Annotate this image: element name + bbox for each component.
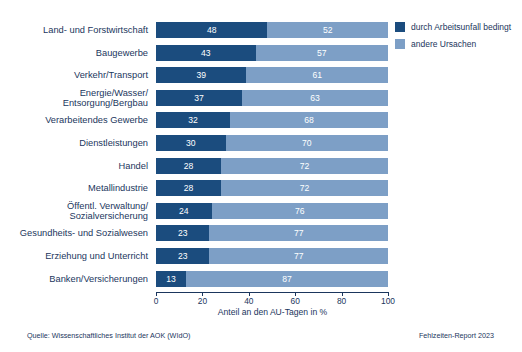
x-axis-tick-label: 60 [291,296,300,306]
bar-value-label: 77 [209,228,388,238]
bar-value-label: 52 [267,25,388,35]
bar-value-label: 39 [156,70,246,80]
bar-value-label: 28 [156,161,221,171]
bar-value-label: 13 [156,274,186,284]
legend-label-0: durch Arbeitsunfall bedingt [411,22,511,32]
bar-segment-andere: 70 [226,135,388,151]
bar-segment-arbeitsunfall: 32 [156,112,230,128]
bar-value-label: 32 [156,115,230,125]
bar-segment-andere: 77 [209,225,388,241]
bar-segment-andere: 72 [221,180,388,196]
bar-row: 2476 [156,203,388,219]
category-label: Metallindustrie [88,183,148,194]
bar-value-label: 24 [156,206,212,216]
category-label: Verkehr/Transport [74,70,148,81]
bar-segment-andere: 87 [186,271,388,287]
bar-segment-arbeitsunfall: 23 [156,248,209,264]
bar-row: 1387 [156,271,388,287]
legend-swatch-1 [395,39,405,49]
x-axis-line [156,292,389,293]
bar-value-label: 72 [221,183,388,193]
bar-value-label: 70 [226,138,388,148]
bar-segment-arbeitsunfall: 39 [156,67,246,83]
category-label: Banken/Versicherungen [49,274,148,285]
bar-value-label: 68 [230,115,388,125]
bar-row: 3961 [156,67,388,83]
x-axis-tick-label: 40 [244,296,253,306]
bar-segment-arbeitsunfall: 43 [156,45,256,61]
bar-value-label: 37 [156,93,242,103]
x-axis-tick-label: 80 [337,296,346,306]
bar-value-label: 77 [209,251,388,261]
category-label: Öffentl. Verwaltung/ Sozialversicherung [67,201,148,222]
bar-value-label: 30 [156,138,226,148]
bar-row: 2377 [156,225,388,241]
category-label: Gesundheits- und Sozialwesen [20,228,148,239]
bar-segment-andere: 76 [212,203,388,219]
legend-item-1: andere Ursachen [395,39,511,49]
bar-segment-andere: 72 [221,158,388,174]
bar-value-label: 43 [156,48,256,58]
bar-row: 2377 [156,248,388,264]
footer: Quelle: Wissenschaftliches Institut der … [0,331,522,343]
bar-segment-arbeitsunfall: 28 [156,180,221,196]
bar-row: 2872 [156,158,388,174]
bar-value-label: 61 [246,70,388,80]
x-axis-tick-label: 0 [154,296,159,306]
bar-row: 3268 [156,112,388,128]
legend-swatch-0 [395,22,405,32]
category-label: Energie/Wasser/ Entsorgung/Bergbau [63,88,148,109]
source-note: Quelle: Wissenschaftliches Institut der … [27,331,190,340]
plot-area: 4852435739613763326830702872287224762377… [156,20,388,292]
x-axis-title: Anteil an den AU-Tagen in % [156,307,389,317]
category-label: Erziehung und Unterricht [45,251,148,262]
legend: durch Arbeitsunfall bedingt andere Ursac… [395,22,511,56]
bar-segment-arbeitsunfall: 13 [156,271,186,287]
category-label: Handel [119,161,148,172]
bar-row: 3763 [156,90,388,106]
bar-row: 2872 [156,180,388,196]
bar-value-label: 48 [156,25,267,35]
legend-label-1: andere Ursachen [411,39,476,49]
chart-container: Land- und ForstwirtschaftBaugewerbeVerke… [0,0,522,352]
bar-segment-arbeitsunfall: 48 [156,22,267,38]
bar-value-label: 76 [212,206,388,216]
x-axis-tick-label: 20 [198,296,207,306]
bar-value-label: 72 [221,161,388,171]
bar-row: 4357 [156,45,388,61]
report-note: Fehlzeiten-Report 2023 [419,331,494,340]
bar-row: 4852 [156,22,388,38]
bar-value-label: 23 [156,251,209,261]
bar-segment-arbeitsunfall: 23 [156,225,209,241]
bar-value-label: 28 [156,183,221,193]
bar-segment-andere: 61 [246,67,388,83]
bar-segment-arbeitsunfall: 28 [156,158,221,174]
bar-value-label: 87 [186,274,388,284]
bar-value-label: 63 [242,93,388,103]
category-label: Dienstleistungen [79,138,148,149]
bar-segment-andere: 68 [230,112,388,128]
bar-row: 3070 [156,135,388,151]
bar-segment-andere: 77 [209,248,388,264]
legend-item-0: durch Arbeitsunfall bedingt [395,22,511,32]
category-label: Baugewerbe [96,48,148,59]
category-label: Verarbeitendes Gewerbe [45,115,148,126]
x-axis-tick-label: 100 [381,296,395,306]
bar-segment-andere: 57 [256,45,388,61]
bar-segment-andere: 52 [267,22,388,38]
bar-value-label: 23 [156,228,209,238]
bar-segment-andere: 63 [242,90,388,106]
category-label: Land- und Forstwirtschaft [43,25,148,36]
bar-value-label: 57 [256,48,388,58]
bar-segment-arbeitsunfall: 37 [156,90,242,106]
bar-segment-arbeitsunfall: 24 [156,203,212,219]
bar-segment-arbeitsunfall: 30 [156,135,226,151]
